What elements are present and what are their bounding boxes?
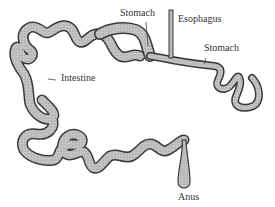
label-esophagus: Esophagus [178, 14, 221, 24]
label-intestine: Intestine [61, 73, 95, 83]
label-stomach-upper: Stomach [120, 8, 155, 18]
label-stomach-right: Stomach [204, 43, 239, 53]
esophagus-tube [169, 10, 173, 58]
label-anus: Anus [178, 192, 199, 202]
digestive-tract-drawing [0, 0, 275, 207]
intestine-tube [15, 26, 184, 168]
